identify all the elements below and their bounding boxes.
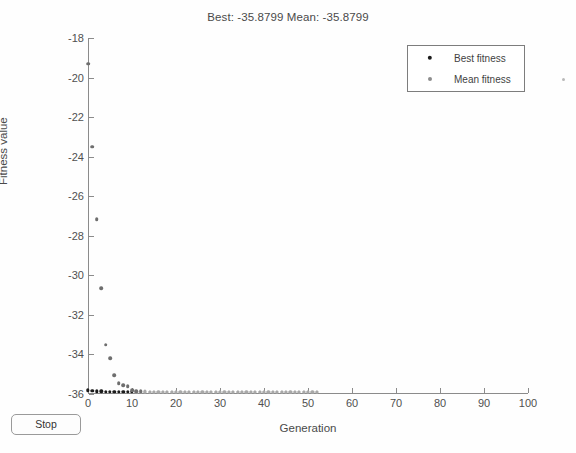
data-point [139, 389, 143, 393]
x-tick [528, 388, 529, 393]
x-tick-label: 20 [170, 397, 182, 409]
y-tick-label: -20 [68, 72, 84, 84]
data-point [121, 383, 125, 387]
data-point [86, 62, 90, 66]
x-tick-label: 80 [434, 397, 446, 409]
ga-plot-window: Best: -35.8799 Mean: -35.8799 Fitness va… [0, 0, 576, 453]
x-tick-label: 50 [302, 397, 314, 409]
x-tick [484, 388, 485, 393]
x-tick [396, 388, 397, 393]
data-point [95, 217, 99, 221]
x-tick-label: 90 [478, 397, 490, 409]
data-point [86, 389, 89, 392]
data-point [130, 389, 134, 393]
data-point [117, 381, 121, 385]
x-tick-label: 30 [214, 397, 226, 409]
x-tick-label: 60 [346, 397, 358, 409]
x-tick [352, 388, 353, 393]
y-tick: -30 [89, 275, 94, 276]
y-axis-line [88, 38, 89, 394]
y-tick: -18 [89, 38, 94, 39]
y-tick-label: -30 [68, 269, 84, 281]
y-tick: -28 [89, 236, 94, 237]
x-tick-label: 0 [85, 397, 91, 409]
y-tick: -34 [89, 354, 94, 355]
data-point [135, 389, 139, 393]
y-tick-label: -32 [68, 309, 84, 321]
legend-marker-icon [428, 56, 432, 60]
x-tick-label: 10 [126, 397, 138, 409]
data-point [104, 343, 108, 347]
stray-dot-artifact [562, 78, 565, 81]
legend: Best fitness Mean fitness [407, 45, 525, 92]
legend-item-mean-fitness: Mean fitness [408, 68, 524, 90]
y-tick: -22 [89, 117, 94, 118]
y-axis-label: Fitness value [0, 117, 9, 185]
y-tick-label: -22 [68, 111, 84, 123]
y-tick: -24 [89, 157, 94, 158]
y-tick-label: -28 [68, 230, 84, 242]
y-tick-label: -24 [68, 151, 84, 163]
y-tick-label: -34 [68, 348, 84, 360]
legend-item-best-fitness: Best fitness [408, 47, 524, 69]
data-point [99, 286, 103, 290]
data-point [126, 384, 130, 388]
x-tick-label: 70 [390, 397, 402, 409]
y-tick: -26 [89, 196, 94, 197]
data-point [113, 373, 117, 377]
y-tick: -32 [89, 315, 94, 316]
x-tick-label: 100 [519, 397, 537, 409]
y-tick-label: -36 [68, 388, 84, 400]
legend-label: Mean fitness [454, 74, 511, 85]
x-tick [440, 388, 441, 393]
y-tick-label: -26 [68, 190, 84, 202]
x-axis-line [88, 393, 528, 394]
y-tick: -36 [89, 394, 94, 395]
page-title: Best: -35.8799 Mean: -35.8799 [0, 11, 576, 23]
x-tick-label: 40 [258, 397, 270, 409]
y-tick: -20 [89, 78, 94, 79]
legend-marker-icon [428, 77, 432, 81]
legend-label: Best fitness [454, 53, 506, 64]
y-tick-label: -18 [68, 32, 84, 44]
x-axis-label: Generation [88, 422, 528, 434]
data-point [108, 357, 112, 361]
stop-button[interactable]: Stop [11, 414, 81, 435]
data-point [91, 145, 95, 149]
